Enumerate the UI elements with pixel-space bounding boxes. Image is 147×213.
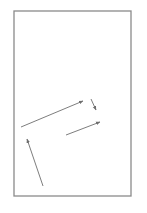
diagram-canvas xyxy=(0,0,147,213)
arrows-group xyxy=(21,99,100,186)
arrow-2 xyxy=(91,99,96,110)
arrow-4 xyxy=(27,139,43,186)
frame-border xyxy=(14,11,131,196)
arrow-1 xyxy=(21,101,83,127)
arrow-3 xyxy=(66,122,100,135)
